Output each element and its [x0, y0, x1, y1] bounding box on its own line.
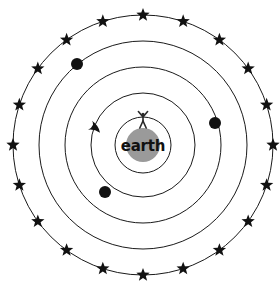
star-icon: [96, 262, 109, 275]
star-icon: [31, 214, 44, 227]
counterclockwise-rotation-arrow: [88, 121, 100, 133]
star-icon: [31, 62, 44, 75]
star-icon: [96, 14, 109, 27]
star-icon: [13, 178, 26, 191]
star-icon: [242, 214, 255, 227]
star-icon: [136, 268, 149, 281]
earth-label: earth: [121, 137, 166, 155]
geocentric-model-svg: earth: [0, 0, 280, 293]
star-icon: [177, 262, 190, 275]
star-icon: [242, 62, 255, 75]
star-icon: [136, 8, 149, 21]
star-icon: [177, 14, 190, 27]
star-icon: [260, 178, 273, 191]
earth-group: earth: [121, 112, 166, 163]
geocentric-diagram: earth: [0, 0, 280, 293]
human-figure-icon: [138, 112, 147, 129]
planet-upper-left: [71, 58, 83, 70]
planet-right: [209, 117, 221, 129]
star-icon: [13, 98, 26, 111]
rotation-arrow-group: [88, 121, 100, 133]
planet-lower-left: [99, 186, 111, 198]
star-icon: [260, 98, 273, 111]
